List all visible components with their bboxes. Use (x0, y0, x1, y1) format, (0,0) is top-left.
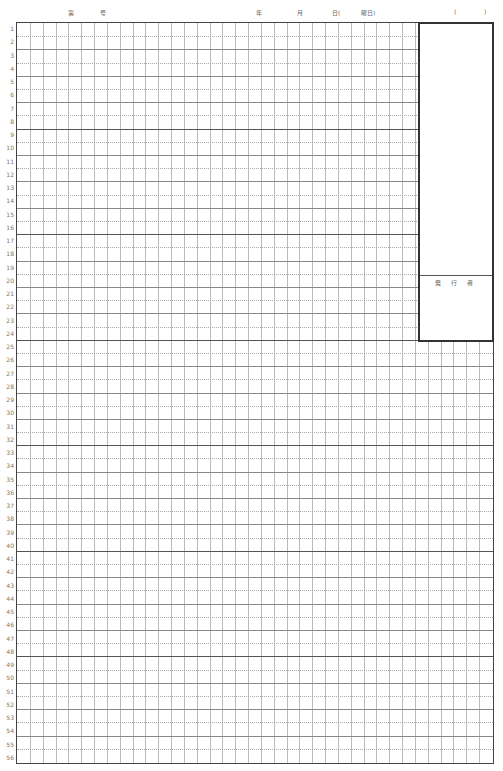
grid-row-line (17, 551, 493, 552)
row-number: 23 (0, 317, 14, 324)
row-number: 11 (0, 158, 14, 165)
grid-row-line (17, 445, 493, 446)
row-number: 50 (0, 674, 14, 681)
row-number: 48 (0, 648, 14, 655)
row-number: 49 (0, 661, 14, 668)
grid-row-line (17, 524, 493, 525)
grid-row-line (17, 604, 493, 605)
row-number: 4 (0, 65, 14, 72)
row-number: 38 (0, 515, 14, 522)
grid-row-line (17, 511, 493, 512)
row-number: 52 (0, 701, 14, 708)
row-number: 15 (0, 211, 14, 218)
grid-row-line (17, 538, 493, 539)
row-number: 5 (0, 78, 14, 85)
row-number: 42 (0, 568, 14, 575)
row-number: 7 (0, 105, 14, 112)
row-number: 17 (0, 237, 14, 244)
grid-row-line (17, 406, 493, 407)
row-number: 30 (0, 409, 14, 416)
row-number: 54 (0, 727, 14, 734)
row-number: 22 (0, 303, 14, 310)
number-prefix-label: 第 (68, 8, 74, 17)
row-number: 41 (0, 555, 14, 562)
row-number: 18 (0, 250, 14, 257)
grid-row-line (17, 564, 493, 565)
row-number: 16 (0, 224, 14, 231)
grid-row-line (17, 498, 493, 499)
row-number: 32 (0, 436, 14, 443)
row-number: 10 (0, 144, 14, 151)
issuer-divider (420, 275, 492, 276)
grid-row-line (17, 617, 493, 618)
grid-row-line (17, 393, 493, 394)
number-suffix-label: 号 (100, 8, 106, 17)
row-number: 39 (0, 529, 14, 536)
row-number: 45 (0, 608, 14, 615)
row-number: 24 (0, 330, 14, 337)
row-number: 44 (0, 595, 14, 602)
row-number: 13 (0, 184, 14, 191)
row-number: 36 (0, 489, 14, 496)
grid-row-line (17, 656, 493, 657)
grid-row-line (17, 590, 493, 591)
row-number: 29 (0, 396, 14, 403)
grid-row-line (17, 353, 493, 354)
grid-row-line (17, 485, 493, 486)
row-number: 14 (0, 197, 14, 204)
row-number: 3 (0, 52, 14, 59)
grid-row-line (17, 696, 493, 697)
year-label: 年 (256, 8, 262, 17)
row-number: 1 (0, 25, 14, 32)
row-number: 35 (0, 476, 14, 483)
row-number: 33 (0, 449, 14, 456)
row-number: 47 (0, 635, 14, 642)
grid-row-line (17, 670, 493, 671)
grid-row-line (17, 630, 493, 631)
grid-row-line (17, 419, 493, 420)
issuer-label: 発 行 者 (420, 278, 492, 287)
row-number: 9 (0, 131, 14, 138)
row-number: 46 (0, 621, 14, 628)
grid-row-line (17, 709, 493, 710)
row-number: 34 (0, 462, 14, 469)
row-number: 25 (0, 343, 14, 350)
row-number: 19 (0, 264, 14, 271)
paren-open: ( (454, 8, 456, 15)
row-number: 31 (0, 423, 14, 430)
weekday-label: 曜日) (361, 8, 375, 17)
grid-row-line (17, 432, 493, 433)
grid-row-line (17, 458, 493, 459)
grid-row-line (17, 379, 493, 380)
row-number: 53 (0, 714, 14, 721)
grid-row-line (17, 577, 493, 578)
row-number: 12 (0, 171, 14, 178)
row-number: 43 (0, 582, 14, 589)
issuer-box[interactable]: 発 行 者 (418, 22, 494, 342)
row-number: 21 (0, 290, 14, 297)
row-number: 20 (0, 277, 14, 284)
paren-close: ) (484, 8, 486, 15)
grid-row-line (17, 472, 493, 473)
row-number: 6 (0, 91, 14, 98)
row-number: 28 (0, 383, 14, 390)
row-number: 2 (0, 38, 14, 45)
row-number: 55 (0, 741, 14, 748)
grid-row-line (17, 366, 493, 367)
month-label: 月 (297, 8, 303, 17)
grid-row-line (17, 722, 493, 723)
row-number: 40 (0, 542, 14, 549)
row-number: 27 (0, 370, 14, 377)
row-number: 26 (0, 356, 14, 363)
grid-row-line (17, 683, 493, 684)
row-number: 51 (0, 688, 14, 695)
grid-row-line (17, 749, 493, 750)
grid-row-line (17, 736, 493, 737)
row-number: 8 (0, 118, 14, 125)
row-number: 56 (0, 754, 14, 761)
row-number: 37 (0, 502, 14, 509)
day-label: 日( (332, 8, 340, 17)
grid-row-line (17, 643, 493, 644)
